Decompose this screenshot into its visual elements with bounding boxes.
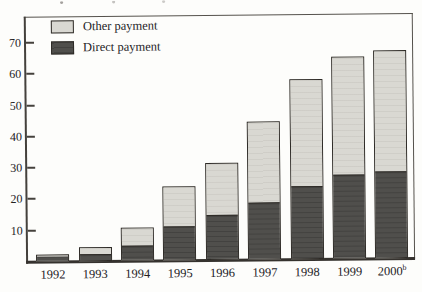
x-axis-label-1997: 1997 [243, 265, 287, 280]
bar-1999-other-payment-segment [332, 58, 364, 175]
bar-1994-direct-payment-segment [122, 245, 153, 260]
x-axis-label-1994: 1994 [116, 266, 160, 281]
x-axis-label-1999: 1999 [328, 264, 372, 279]
y-axis-tick-20 [27, 198, 35, 200]
bar-1997 [247, 122, 281, 260]
bar-1998-other-payment-segment [290, 80, 322, 186]
bar-1999 [331, 57, 366, 259]
legend-label: Direct payment [83, 39, 161, 55]
legend-label: Other payment [83, 18, 158, 34]
y-axis-tick-60 [26, 73, 34, 75]
bar-2000-direct-payment-segment [376, 171, 408, 257]
x-axis-label-1993: 1993 [73, 267, 117, 282]
bar-1999-direct-payment-segment [333, 174, 365, 257]
x-axis-label-1992: 1992 [31, 267, 75, 282]
bar-1996-other-payment-segment [206, 164, 237, 215]
y-axis-tick-70 [26, 42, 34, 44]
y-axis-label-40: 40 [0, 130, 22, 144]
legend-item-direct-payment: Direct payment [51, 36, 161, 57]
bar-1997-other-payment-segment [248, 123, 280, 202]
bar-1993 [79, 247, 112, 261]
y-axis-label-30: 30 [0, 161, 22, 175]
y-axis-label-50: 50 [0, 98, 22, 112]
y-axis-tick-40 [27, 136, 35, 138]
bar-1992-direct-payment-segment [37, 256, 68, 261]
bar-1998-direct-payment-segment [291, 186, 323, 258]
x-axis-label-1996: 1996 [200, 266, 244, 281]
bar-2000-other-payment-segment [374, 51, 406, 171]
y-axis-label-20: 20 [0, 192, 22, 206]
bar-1995-other-payment-segment [164, 188, 195, 227]
scan-artifact [54, 0, 204, 4]
bar-2000 [373, 50, 408, 258]
bar-1996-direct-payment-segment [206, 215, 237, 259]
bar-1994 [121, 228, 154, 261]
bar-1995-direct-payment-segment [164, 226, 195, 259]
x-axis-label-1995: 1995 [158, 266, 202, 281]
y-axis-label-10: 10 [1, 224, 23, 238]
y-axis-label-70: 70 [0, 36, 21, 50]
bar-1992 [36, 254, 69, 261]
bar-1994-other-payment-segment [122, 229, 153, 246]
footnote-marker: b [403, 263, 407, 272]
y-axis-line [24, 17, 28, 264]
bar-1995 [163, 187, 197, 261]
bar-1996 [205, 163, 239, 260]
y-axis-tick-50 [27, 104, 35, 106]
stacked-bar-chart-figure: Other payment Direct payment 10203040506… [0, 0, 422, 292]
chart-legend: Other payment Direct payment [51, 15, 161, 58]
y-axis-tick-10 [28, 229, 36, 231]
plot-frame-right [412, 13, 415, 259]
x-axis-label-1998: 1998 [285, 265, 329, 280]
x-axis-label-2000: 2000b [370, 264, 414, 279]
other-payment-swatch-icon [51, 20, 74, 33]
bar-1998 [289, 79, 324, 259]
bar-1997-direct-payment-segment [249, 202, 281, 259]
y-axis-label-60: 60 [0, 67, 21, 81]
bar-1993-direct-payment-segment [80, 254, 111, 261]
y-axis-tick-30 [27, 167, 35, 169]
legend-item-other-payment: Other payment [51, 15, 161, 36]
direct-payment-swatch-icon [51, 41, 74, 54]
